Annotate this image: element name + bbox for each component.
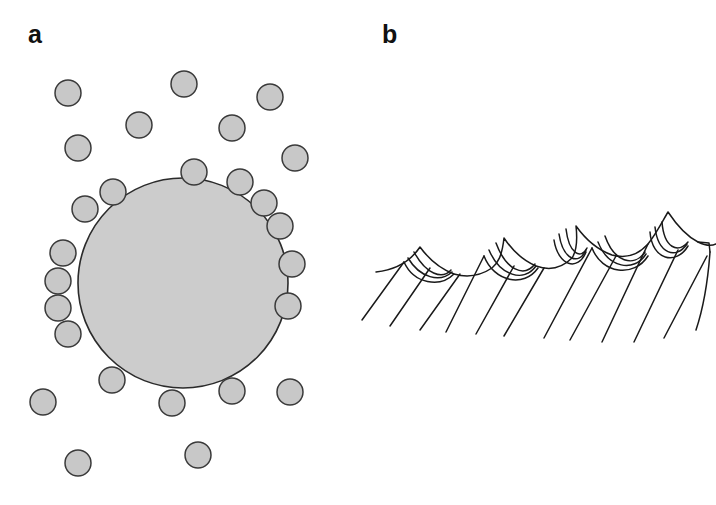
scallop-notch-5 bbox=[650, 232, 688, 258]
scallop-hatch-3a bbox=[559, 234, 586, 259]
adsorbed-particle-6 bbox=[267, 213, 293, 239]
figure-root: a b bbox=[0, 0, 716, 505]
adsorbed-particle-3 bbox=[72, 196, 98, 222]
panel-b-illustration bbox=[358, 0, 716, 505]
step-line-2 bbox=[390, 268, 430, 326]
adsorbed-particle-5 bbox=[251, 190, 277, 216]
scallop-notch-1 bbox=[404, 262, 454, 282]
adsorbed-particle-11 bbox=[45, 295, 71, 321]
adsorbed-particle-4 bbox=[227, 169, 253, 195]
adsorbed-particle-7 bbox=[279, 251, 305, 277]
scallop-hatch-2b bbox=[496, 243, 535, 271]
surface-profile-lines bbox=[362, 212, 716, 342]
scallop-hatch-5b bbox=[662, 222, 688, 248]
panel-b: b bbox=[358, 0, 716, 505]
free-particle-9 bbox=[277, 379, 303, 405]
free-particle-5 bbox=[219, 115, 245, 141]
free-particle-1 bbox=[55, 80, 81, 106]
free-particle-8 bbox=[30, 389, 56, 415]
free-particle-11 bbox=[185, 442, 211, 468]
free-particle-2 bbox=[171, 71, 197, 97]
free-particle-7 bbox=[282, 145, 308, 171]
free-particle-4 bbox=[126, 112, 152, 138]
adsorbed-particle-15 bbox=[219, 378, 245, 404]
adsorbed-particle-12 bbox=[55, 321, 81, 347]
step-line-4 bbox=[446, 256, 484, 332]
adsorbed-particle-1 bbox=[181, 159, 207, 185]
ridge-line bbox=[376, 212, 716, 276]
adsorbed-particle-14 bbox=[159, 390, 185, 416]
free-particle-10 bbox=[65, 450, 91, 476]
adsorbed-particle-13 bbox=[99, 367, 125, 393]
panel-a-illustration bbox=[0, 0, 358, 505]
adsorbed-particle-9 bbox=[50, 240, 76, 266]
free-particle-3 bbox=[257, 84, 283, 110]
free-particle-6 bbox=[65, 135, 91, 161]
terminal-diagonal bbox=[664, 256, 707, 338]
adsorbed-particle-2 bbox=[100, 179, 126, 205]
adsorbed-particle-8 bbox=[275, 293, 301, 319]
adsorbed-particle-10 bbox=[45, 268, 71, 294]
step-line-5 bbox=[476, 266, 514, 334]
panel-a: a bbox=[0, 0, 358, 505]
